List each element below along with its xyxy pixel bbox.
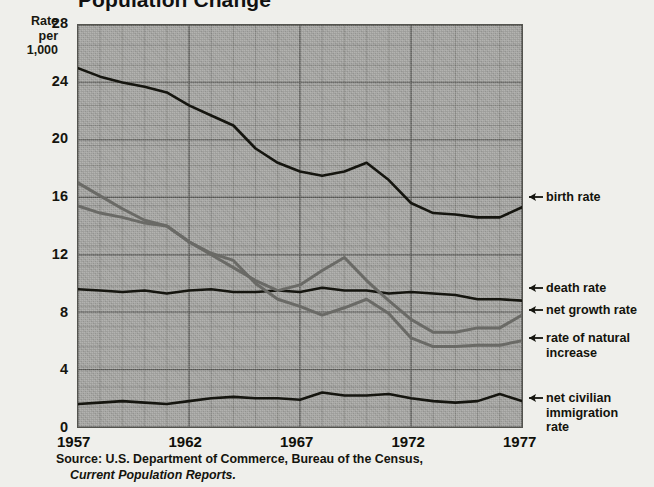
series-line-1 <box>78 288 522 301</box>
callout-death-rate: death rate <box>528 281 606 296</box>
left-arrow-icon <box>528 190 544 204</box>
y-tick-label: 20 <box>22 130 68 146</box>
callout-net-civilian-immigration-rate: net civilian immigration rate <box>528 391 618 435</box>
x-tick-label: 1967 <box>280 433 313 450</box>
callout-rate-of-natural-increase: rate of natural increase <box>528 331 630 360</box>
series-line-4 <box>78 393 522 404</box>
series-line-0 <box>78 68 522 217</box>
y-tick-label: 8 <box>22 304 68 320</box>
source-line-2: Current Population Reports. <box>56 468 423 484</box>
page-title: Population Change <box>78 0 271 12</box>
chart-canvas: Population Change Rateper1,000 048121620… <box>0 0 654 487</box>
y-tick-label: 12 <box>22 246 68 262</box>
series-line-2 <box>78 183 522 332</box>
y-tick-label: 16 <box>22 188 68 204</box>
callout-text: birth rate <box>546 190 601 204</box>
left-arrow-icon <box>528 281 544 295</box>
series-line-3 <box>78 206 522 347</box>
y-tick-label: 4 <box>22 361 68 377</box>
callout-text: rate of natural increase <box>546 331 630 360</box>
callout-birth-rate: birth rate <box>528 190 601 205</box>
source-note: Source: U.S. Department of Commerce, Bur… <box>56 452 423 483</box>
data-series-lines <box>78 25 522 427</box>
callout-net-growth-rate: net growth rate <box>528 303 637 318</box>
left-arrow-icon <box>528 331 544 345</box>
y-tick-label: 24 <box>22 73 68 89</box>
callout-text: net civilian immigration rate <box>546 391 618 434</box>
x-tick-label: 1977 <box>503 433 536 450</box>
x-tick-label: 1957 <box>57 433 90 450</box>
left-arrow-icon <box>528 303 544 317</box>
x-tick-label: 1972 <box>392 433 425 450</box>
left-arrow-icon <box>528 391 544 405</box>
y-tick-label: 28 <box>22 15 68 31</box>
callout-text: death rate <box>546 281 606 295</box>
plot-area <box>77 24 523 428</box>
source-line-1: Source: U.S. Department of Commerce, Bur… <box>56 452 423 466</box>
callout-text: net growth rate <box>546 303 637 317</box>
y-caption-line: 1,000 <box>2 43 58 58</box>
x-tick-label: 1962 <box>169 433 202 450</box>
